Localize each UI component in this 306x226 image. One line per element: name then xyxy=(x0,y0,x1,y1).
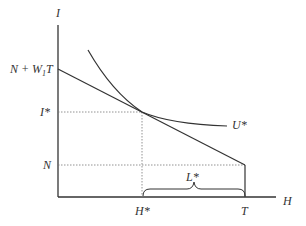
y-label-i-star: I* xyxy=(39,105,50,119)
labor-leisure-diagram: I H N + W1T I* N H* T U* L* xyxy=(0,0,306,226)
y-label-n: N xyxy=(42,158,52,172)
x-axis-label: H xyxy=(282,194,293,208)
y-label-n-plus-w1t: N + W1T xyxy=(9,62,54,78)
x-label-t: T xyxy=(241,204,249,218)
budget-line xyxy=(58,69,245,165)
leisure-brace xyxy=(143,182,245,196)
x-label-h-star: H* xyxy=(134,204,150,218)
y-axis-label: I xyxy=(55,6,61,20)
brace-label: L* xyxy=(185,170,199,184)
indifference-label: U* xyxy=(232,118,247,132)
indifference-curve xyxy=(88,50,227,126)
